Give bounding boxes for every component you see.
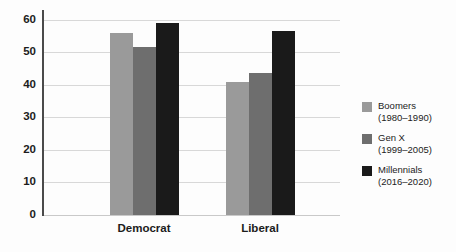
y-tick-label-20: 20 [2,144,36,156]
y-tick-label-30: 30 [2,112,36,124]
x-tick-label-liberal: Liberal [241,222,279,234]
legend-item-boomers: Boomers (1980–1990) [362,100,454,123]
bar-democrat-boomers[interactable] [110,33,133,215]
legend-swatch-gen-x-icon [362,134,372,144]
x-tick-label-democrat: Democrat [117,222,170,234]
legend-years-gen-x: (1999–2005) [378,144,432,156]
plot-area [42,10,340,215]
bar-democrat-gen-x[interactable] [133,47,156,215]
legend-swatch-boomers-icon [362,102,372,112]
y-tick-label-0: 0 [2,209,36,221]
y-tick-label-40: 40 [2,79,36,91]
y-tick-label-60: 60 [2,14,36,26]
bar-democrat-millennials[interactable] [156,23,179,215]
legend-item-millennials: Millennials (2016–2020) [362,164,454,187]
legend-years-boomers: (1980–1990) [378,112,432,124]
bars-layer [42,10,340,215]
legend-label-boomers: Boomers [378,100,432,112]
y-tick-label-10: 10 [2,177,36,189]
bar-liberal-boomers[interactable] [226,82,249,215]
legend-years-millennials: (2016–2020) [378,176,432,188]
bar-liberal-gen-x[interactable] [249,73,272,215]
legend-label-millennials: Millennials [378,164,432,176]
legend-label-gen-x: Gen X [378,132,432,144]
bar-chart: 60 50 40 30 20 10 0 Democrat Liberal Boo… [0,0,456,252]
y-axis-line [42,10,44,216]
legend-swatch-millennials-icon [362,166,372,176]
y-axis-tick-labels: 60 50 40 30 20 10 0 [0,10,36,215]
x-axis-tick-labels: Democrat Liberal [42,222,340,242]
bar-group-liberal [226,10,295,215]
bar-group-democrat [110,10,179,215]
gridline-0 [42,215,340,216]
bar-liberal-millennials[interactable] [272,31,295,215]
y-tick-label-50: 50 [2,47,36,59]
legend-item-gen-x: Gen X (1999–2005) [362,132,454,155]
chart-legend: Boomers (1980–1990) Gen X (1999–2005) Mi… [362,100,454,196]
